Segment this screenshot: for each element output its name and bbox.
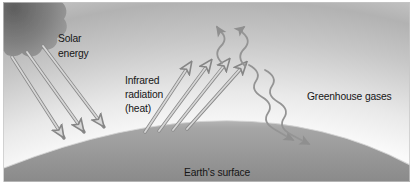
greenhouse-gases-label: Greenhouse gases xyxy=(307,91,392,102)
solar-energy-label-line1: Solar xyxy=(58,33,82,44)
earths-surface-label: Earth's surface xyxy=(184,167,251,178)
infrared-label-line3: (heat) xyxy=(125,103,151,114)
greenhouse-effect-diagram: Solar energy Infrared radiation (heat) G… xyxy=(0,0,414,191)
infrared-label-line2: radiation xyxy=(125,89,164,100)
solar-energy-label-line2: energy xyxy=(58,48,90,59)
diagram-canvas: Solar energy Infrared radiation (heat) G… xyxy=(0,0,414,191)
infrared-label-line1: Infrared xyxy=(125,75,160,86)
